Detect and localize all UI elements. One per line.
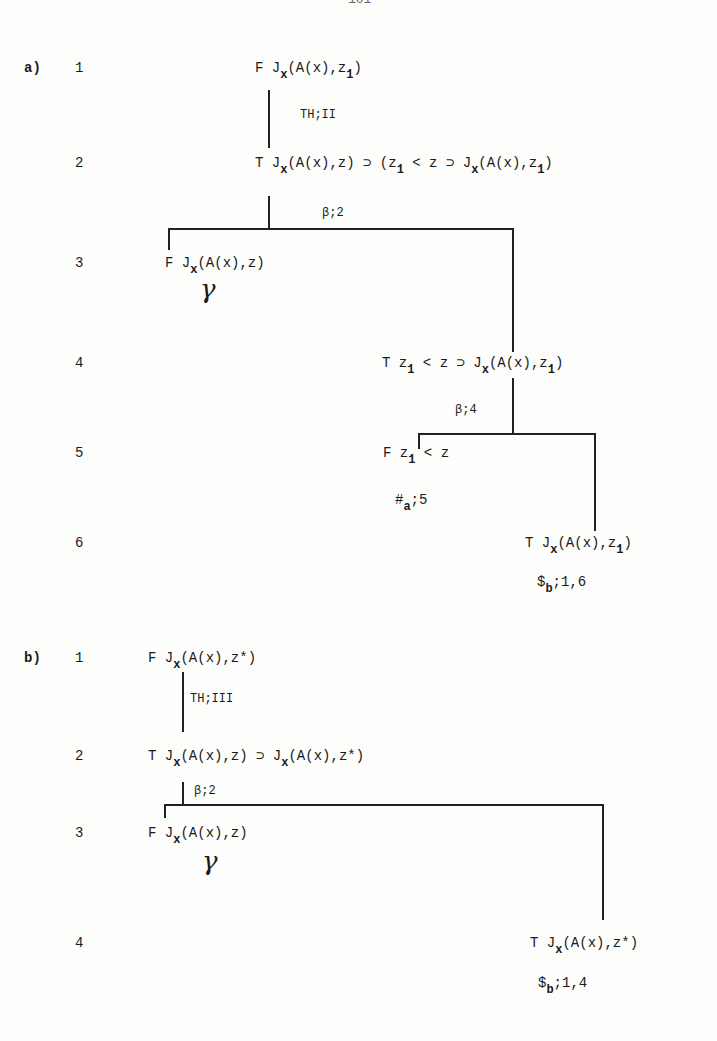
branch-line-right bbox=[512, 228, 514, 352]
branch-line bbox=[182, 672, 184, 732]
handwritten-mark: γ bbox=[200, 276, 216, 302]
subscript: b bbox=[546, 983, 553, 997]
expression: < z bbox=[415, 445, 449, 461]
symbol: J bbox=[165, 650, 173, 666]
symbol: J bbox=[165, 825, 173, 841]
sign: T bbox=[382, 355, 390, 371]
branch-line bbox=[268, 196, 270, 228]
closure-note: $b;1,6 bbox=[537, 574, 586, 591]
expression: (A(x),z) bbox=[197, 255, 264, 271]
handwritten-mark: γ bbox=[202, 848, 218, 874]
symbol: J bbox=[542, 535, 550, 551]
symbol: z bbox=[399, 355, 407, 371]
subscript: 1 bbox=[616, 543, 623, 557]
expression: (A(x),z) bbox=[180, 825, 247, 841]
formula-a2: T Jx(A(x),z) ⊃ (z1 < z ⊃ Jx(A(x),z1) bbox=[255, 155, 553, 172]
subscript: 1 bbox=[346, 68, 353, 82]
subscript: x bbox=[280, 163, 287, 177]
row-number: 4 bbox=[75, 355, 83, 371]
row-number: 1 bbox=[75, 650, 83, 666]
subscript: x bbox=[555, 943, 562, 957]
sign: F bbox=[255, 60, 263, 76]
formula-b4: T Jx(A(x),z*) bbox=[530, 935, 638, 952]
closure-ref: ;5 bbox=[411, 492, 428, 508]
expression: ) bbox=[353, 60, 361, 76]
expression: (A(x),z*) bbox=[180, 650, 256, 666]
row-number: 6 bbox=[75, 535, 83, 551]
row-number: 4 bbox=[75, 935, 83, 951]
branch-bar bbox=[164, 804, 604, 806]
symbol: J bbox=[182, 255, 190, 271]
symbol: J bbox=[547, 935, 555, 951]
rule-label: β;2 bbox=[322, 206, 344, 220]
rule-label: β;2 bbox=[194, 784, 216, 798]
subscript: x bbox=[173, 658, 180, 672]
branch-line bbox=[512, 378, 514, 434]
subscript: 1 bbox=[397, 163, 404, 177]
closure-ref: ;1,6 bbox=[553, 574, 587, 590]
expression: (A(x),z*) bbox=[288, 748, 364, 764]
branch-bar bbox=[418, 433, 596, 435]
sign: F bbox=[148, 650, 156, 666]
formula-a5: F z1 < z bbox=[383, 445, 449, 462]
expression: (A(x),z*) bbox=[562, 935, 638, 951]
branch-line-right bbox=[602, 804, 604, 920]
expression: < z ⊃ J bbox=[404, 155, 471, 171]
symbol: J bbox=[165, 748, 173, 764]
formula-b3: F Jx(A(x),z) bbox=[148, 825, 248, 842]
subscript: 1 bbox=[548, 363, 555, 377]
subscript: x bbox=[280, 68, 287, 82]
rule-label: TH;III bbox=[190, 692, 233, 706]
page-number: 101 bbox=[348, 0, 371, 7]
sign: T bbox=[525, 535, 533, 551]
expression: < z ⊃ J bbox=[414, 355, 481, 371]
tableau-a-label: a) bbox=[24, 60, 41, 76]
branch-line-left bbox=[168, 228, 170, 250]
expression: (A(x),z bbox=[489, 355, 548, 371]
subscript: x bbox=[471, 163, 478, 177]
subscript: 1 bbox=[537, 163, 544, 177]
expression: ) bbox=[623, 535, 631, 551]
subscript: x bbox=[173, 756, 180, 770]
subscript: x bbox=[173, 833, 180, 847]
formula-b1: F Jx(A(x),z*) bbox=[148, 650, 256, 667]
subscript: 1 bbox=[408, 453, 415, 467]
expression: (A(x),z bbox=[287, 60, 346, 76]
sign: F bbox=[383, 445, 391, 461]
subscript: x bbox=[550, 543, 557, 557]
branch-line bbox=[268, 90, 270, 148]
subscript: x bbox=[190, 263, 197, 277]
expression: (A(x),z) ⊃ J bbox=[180, 748, 281, 764]
formula-b2: T Jx(A(x),z) ⊃ Jx(A(x),z*) bbox=[148, 748, 364, 765]
formula-a6: T Jx(A(x),z1) bbox=[525, 535, 632, 552]
symbol: J bbox=[272, 60, 280, 76]
closure-note: #a;5 bbox=[395, 492, 427, 509]
formula-a4: T z1 < z ⊃ Jx(A(x),z1) bbox=[382, 355, 563, 372]
row-number: 2 bbox=[75, 748, 83, 764]
subscript: b bbox=[545, 582, 552, 596]
row-number: 3 bbox=[75, 825, 83, 841]
expression: ) bbox=[555, 355, 563, 371]
closure-ref: ;1,4 bbox=[554, 975, 588, 991]
formula-a3: F Jx(A(x),z) bbox=[165, 255, 265, 272]
tableau-b-label: b) bbox=[24, 650, 41, 666]
branch-line-left bbox=[164, 804, 166, 818]
branch-line bbox=[182, 782, 184, 805]
expression: (A(x),z bbox=[478, 155, 537, 171]
subscript: 1 bbox=[407, 363, 414, 377]
subscript: x bbox=[482, 363, 489, 377]
subscript: x bbox=[281, 756, 288, 770]
rule-label: β;4 bbox=[455, 403, 477, 417]
formula-a1: F Jx(A(x),z1) bbox=[255, 60, 362, 77]
expression: (A(x),z) ⊃ (z bbox=[287, 155, 396, 171]
sign: T bbox=[148, 748, 156, 764]
expression: (A(x),z bbox=[557, 535, 616, 551]
symbol: J bbox=[272, 155, 280, 171]
row-number: 1 bbox=[75, 60, 83, 76]
closure-note: $b;1,4 bbox=[538, 975, 587, 992]
expression: ) bbox=[544, 155, 552, 171]
row-number: 5 bbox=[75, 445, 83, 461]
branch-bar bbox=[168, 228, 514, 230]
branch-line-right bbox=[594, 433, 596, 531]
sign: F bbox=[165, 255, 173, 271]
